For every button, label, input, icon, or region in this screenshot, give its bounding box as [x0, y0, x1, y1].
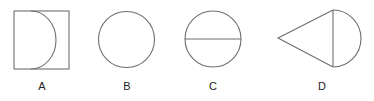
figure-d	[278, 10, 361, 67]
figure-b-label: B	[123, 80, 130, 92]
figure-a-label: A	[38, 80, 45, 92]
figure-b-circle	[99, 12, 155, 68]
figure-d-triangle	[278, 10, 333, 67]
figure-a-square	[14, 11, 69, 69]
figure-d-label: D	[318, 80, 326, 92]
figure-a	[14, 11, 69, 69]
figure-b	[99, 12, 155, 68]
figure-c	[185, 11, 241, 67]
figure-a-arc	[31, 11, 56, 69]
figure-c-label: C	[209, 80, 217, 92]
figure-d-arc	[333, 10, 361, 67]
